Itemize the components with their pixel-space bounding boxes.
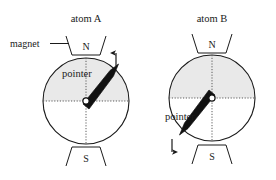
figure-canvas: atom A N S magnet pointer (0, 0, 276, 180)
atom-a-south-pole-label: S (83, 153, 89, 164)
atom-b-pointer-label: pointer (165, 111, 195, 122)
atom-a-pointer-label: pointer (62, 68, 92, 79)
atom-b-south-pole-label: S (209, 151, 215, 162)
atom-a-north-magnet: N (66, 36, 106, 55)
atom-b-north-magnet: N (192, 34, 232, 53)
atom-b-north-pole-label: N (208, 39, 215, 50)
atom-a-pivot (83, 98, 89, 104)
atom-a-group: atom A N S magnet pointer (10, 13, 129, 166)
magnet-callout: magnet (10, 38, 69, 49)
magnet-label: magnet (10, 38, 40, 49)
atom-b-group: atom B N S pointer (165, 13, 255, 164)
atom-b-pivot (209, 95, 215, 101)
atom-a-title: atom A (71, 13, 102, 24)
atom-a-north-pole-label: N (82, 41, 89, 52)
atom-b-south-magnet: S (192, 145, 232, 164)
atom-b-title: atom B (197, 13, 228, 24)
magnet-atom-diagram: atom A N S magnet pointer (0, 0, 276, 180)
atom-a-south-magnet: S (66, 147, 106, 166)
